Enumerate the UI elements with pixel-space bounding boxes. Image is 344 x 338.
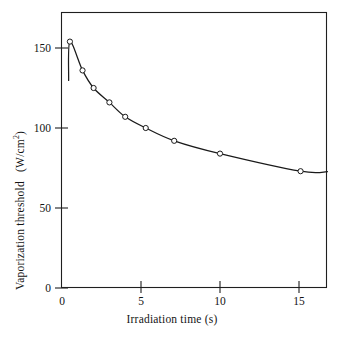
data-point-marker [67, 39, 72, 44]
y-axis-units-exponent: 2 [12, 135, 21, 139]
y-tick-label-150: 150 [34, 42, 52, 54]
y-tick-label-50: 50 [40, 202, 52, 214]
plot-frame-rect [62, 13, 327, 288]
y-axis-tick-labels: 050100150 [34, 42, 52, 294]
y-tick-label-100: 100 [34, 122, 52, 134]
y-axis-title: Vaporization threshold (W/cm2) [14, 131, 26, 290]
y-axis-title-container: Vaporization threshold (W/cm2) [0, 0, 30, 300]
data-point-marker [143, 125, 148, 130]
figure-container: 050100150 051015 Vaporization threshold … [0, 0, 344, 338]
data-point-marker [217, 151, 222, 156]
data-point-marker [123, 114, 128, 119]
x-tick-label-0: 0 [59, 295, 65, 307]
data-point-marker [172, 138, 177, 143]
data-point-marker [107, 100, 112, 105]
data-curve [68, 42, 327, 173]
x-tick-label-5: 5 [138, 295, 144, 307]
y-tick-label-0: 0 [45, 282, 51, 294]
data-point-marker [298, 169, 303, 174]
x-tick-label-15: 15 [293, 295, 305, 307]
plot-frame [62, 13, 327, 288]
y-axis-units-close: ) [14, 131, 26, 135]
data-point-marker [91, 85, 96, 90]
data-point-marker [80, 68, 85, 73]
x-tick-label-10: 10 [214, 295, 226, 307]
x-axis-tick-labels: 051015 [59, 295, 305, 307]
y-axis-units-open: (W/cm [14, 139, 26, 172]
y-axis-title-text: Vaporization threshold [14, 181, 26, 290]
vaporization-threshold-chart: 050100150 051015 [0, 0, 344, 338]
x-axis-title: Irradiation time (s) [0, 313, 344, 325]
data-point-markers [67, 39, 303, 174]
